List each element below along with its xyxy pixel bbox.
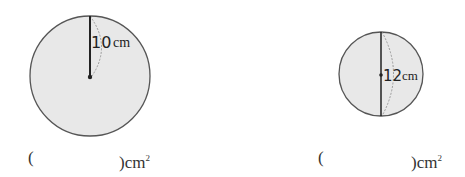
answer-blank-1[interactable] — [36, 148, 118, 168]
diameter-unit: cm — [402, 68, 418, 83]
open-paren: ( — [28, 148, 34, 168]
answer-blank-2[interactable] — [326, 148, 410, 168]
center-point — [88, 75, 92, 79]
answer-unit: )cm2 — [411, 148, 442, 173]
circle-diameter-figure: 12 cm — [339, 32, 423, 116]
answer-unit: )cm2 — [119, 148, 150, 173]
radius-value: 10 — [91, 33, 111, 52]
open-paren: ( — [318, 148, 324, 168]
diameter-value: 12 — [383, 67, 402, 85]
circle-radius-figure: 10 cm — [30, 16, 150, 136]
radius-unit: cm — [113, 35, 130, 50]
